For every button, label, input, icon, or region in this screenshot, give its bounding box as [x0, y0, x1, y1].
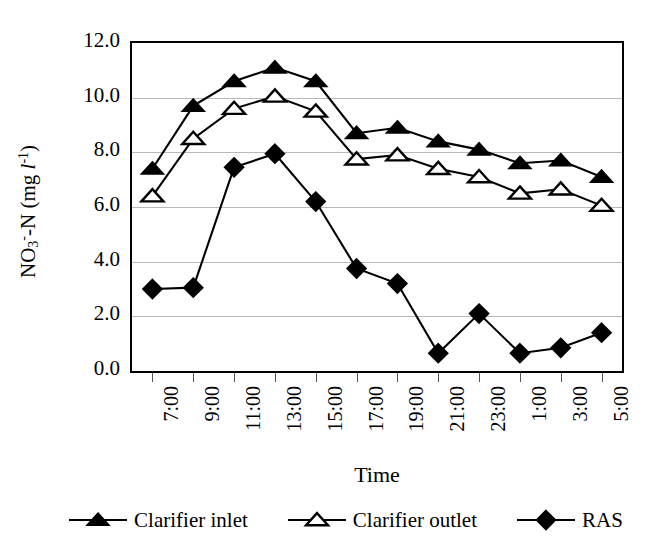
data-point-diamond — [388, 274, 407, 293]
y-axis-title-subscript: 3 — [26, 241, 41, 248]
y-axis-title-prefix: NO — [16, 248, 40, 278]
data-point-triangle-open — [223, 102, 245, 114]
x-tick-mark — [275, 373, 276, 382]
y-axis-title-charge: - — [16, 236, 31, 241]
x-tick-label: 9:00 — [202, 386, 222, 456]
x-tick-label: 3:00 — [570, 386, 590, 456]
data-point-triangle-filled — [427, 134, 449, 146]
data-point-triangle-filled — [550, 154, 572, 166]
x-tick-label: 11:00 — [243, 386, 263, 456]
x-axis-ticks — [130, 373, 624, 382]
y-tick-label: 12.0 — [58, 30, 120, 51]
x-tick-mark — [234, 373, 235, 382]
x-tick-mark — [438, 373, 439, 382]
series-line — [152, 154, 601, 354]
x-tick-mark — [152, 373, 153, 382]
data-point-triangle-open — [305, 104, 327, 116]
data-point-diamond — [551, 338, 570, 357]
y-tick-label: 6.0 — [58, 194, 120, 215]
data-point-triangle-open — [550, 182, 572, 194]
y-axis-title-suffix: ) — [16, 145, 40, 152]
y-axis-title: NO3--N (mg l-1) — [16, 96, 43, 326]
legend-marker-filled-triangle — [67, 507, 129, 533]
legend-item[interactable]: Clarifier inlet — [67, 507, 248, 533]
legend-marker-filled-diamond — [515, 507, 577, 533]
x-tick-label: 13:00 — [284, 386, 304, 456]
data-point-triangle-open — [141, 189, 163, 201]
x-axis-title: Time — [130, 462, 624, 488]
legend-marker-open-triangle — [286, 507, 348, 533]
data-point-triangle-filled — [223, 74, 245, 86]
data-point-triangle-filled — [264, 61, 286, 73]
chart-legend: Clarifier inletClarifier outletRAS — [40, 500, 650, 540]
legend-label: Clarifier outlet — [353, 510, 477, 531]
series-line — [152, 68, 601, 177]
legend-item[interactable]: Clarifier outlet — [286, 507, 477, 533]
x-tick-mark — [520, 373, 521, 382]
data-point-diamond — [225, 158, 244, 177]
x-tick-mark — [602, 373, 603, 382]
x-tick-label: 21:00 — [447, 386, 467, 456]
x-tick-label: 17:00 — [366, 386, 386, 456]
data-point-triangle-filled — [386, 121, 408, 133]
data-point-diamond — [537, 511, 556, 530]
y-tick-label: 8.0 — [58, 139, 120, 160]
data-point-triangle-filled — [305, 74, 327, 86]
plot-series-svg — [132, 43, 622, 371]
x-axis-tick-labels: 7:009:0011:0013:0015:0017:0019:0021:0023… — [130, 386, 624, 456]
x-tick-mark — [193, 373, 194, 382]
data-point-diamond — [143, 280, 162, 299]
x-tick-mark — [316, 373, 317, 382]
x-tick-label: 19:00 — [406, 386, 426, 456]
x-tick-label: 7:00 — [161, 386, 181, 456]
x-tick-mark — [479, 373, 480, 382]
x-tick-label: 15:00 — [325, 386, 345, 456]
data-point-diamond — [592, 323, 611, 342]
chart-figure: NO3--N (mg l-1) 0.02.04.06.08.010.012.0 … — [0, 0, 671, 551]
y-axis-title-mid: -N (mg — [16, 169, 40, 236]
data-point-triangle-open — [427, 162, 449, 174]
data-point-diamond — [347, 259, 366, 278]
y-axis-title-exponent: -1 — [16, 152, 31, 164]
data-point-triangle-open — [264, 89, 286, 101]
y-tick-label: 10.0 — [58, 85, 120, 106]
data-point-diamond — [184, 278, 203, 297]
y-tick-label: 2.0 — [58, 303, 120, 324]
data-point-triangle-filled — [141, 162, 163, 174]
x-tick-mark — [397, 373, 398, 382]
x-tick-label: 5:00 — [611, 386, 631, 456]
y-tick-label: 0.0 — [58, 358, 120, 379]
legend-item[interactable]: RAS — [515, 507, 623, 533]
data-point-triangle-filled — [591, 170, 613, 182]
legend-label: RAS — [582, 510, 623, 531]
x-tick-mark — [561, 373, 562, 382]
data-point-triangle-open — [386, 148, 408, 160]
data-point-triangle-open — [591, 199, 613, 211]
series-line — [152, 96, 601, 205]
y-axis-tick-labels: 0.02.04.06.08.010.012.0 — [54, 0, 120, 420]
legend-label: Clarifier inlet — [134, 510, 248, 531]
y-axis-title-italic-l: l — [16, 164, 40, 170]
x-tick-mark — [357, 373, 358, 382]
x-tick-label: 23:00 — [488, 386, 508, 456]
x-tick-label: 1:00 — [529, 386, 549, 456]
y-tick-label: 4.0 — [58, 249, 120, 270]
plot-area — [130, 41, 624, 373]
